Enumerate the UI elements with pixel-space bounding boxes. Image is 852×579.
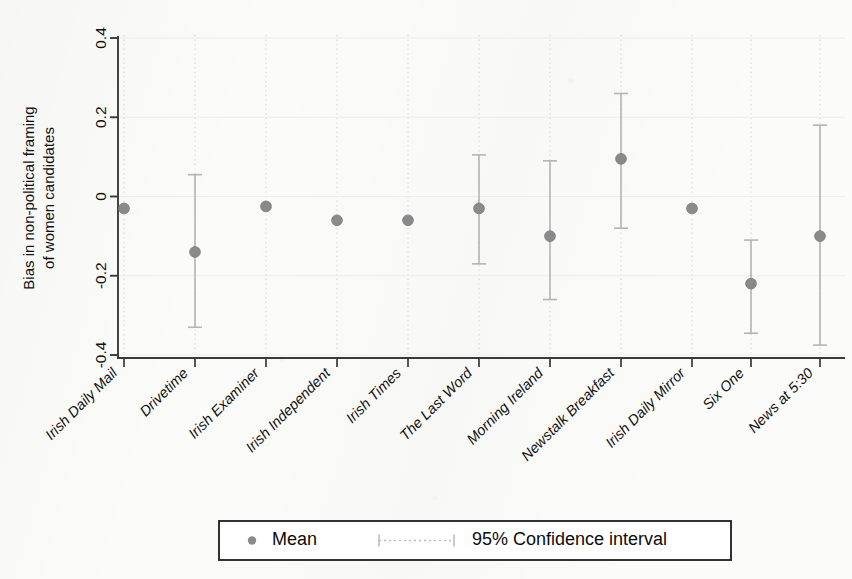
y-axis-title-line-0: Bias in non-political framing <box>20 106 37 289</box>
y-tick-label-2: 0 <box>92 192 109 201</box>
axes-group <box>110 36 845 367</box>
mean-point-8[interactable] <box>687 203 698 214</box>
mean-point-0[interactable] <box>119 203 130 214</box>
confidence-intervals-group <box>188 93 827 345</box>
x-tick-label-5: The Last Word <box>397 364 476 443</box>
legend-ci-label: 95% Confidence interval <box>472 529 667 549</box>
legend-mean-marker-icon <box>248 536 256 544</box>
x-tick-labels-group: Irish Daily MailDrivetimeIrish ExaminerI… <box>42 364 816 464</box>
mean-point-3[interactable] <box>332 215 343 226</box>
mean-point-10[interactable] <box>815 231 826 242</box>
x-tick-label-10: News at 5:30 <box>745 365 816 436</box>
y-axis-title-line-1: of women candidates <box>40 127 57 269</box>
y-axis-title-group: Bias in non-political framingof women ca… <box>20 106 57 289</box>
y-tick-labels-group: 0.40.20-0.2-0.4 <box>92 27 109 369</box>
x-tick-label-1: Drivetime <box>137 365 192 420</box>
ci-bar-6 <box>543 161 557 300</box>
mean-point-2[interactable] <box>261 201 272 212</box>
legend-group: Mean95% Confidence interval <box>219 521 731 560</box>
mean-point-4[interactable] <box>403 215 414 226</box>
bias-dot-plot: 0.40.20-0.2-0.4 Irish Daily MailDrivetim… <box>0 0 852 579</box>
x-tick-label-9: Six One <box>699 365 747 413</box>
mean-point-1[interactable] <box>190 247 201 258</box>
x-tick-label-2: Irish Examiner <box>185 364 263 442</box>
y-tick-label-0: 0.4 <box>92 27 109 49</box>
gridlines-group <box>118 35 845 355</box>
legend-mean-label: Mean <box>272 529 317 549</box>
x-tick-label-0: Irish Daily Mail <box>42 364 121 443</box>
chart-page: 0.40.20-0.2-0.4 Irish Daily MailDrivetim… <box>0 0 852 579</box>
y-tick-label-3: -0.2 <box>92 262 109 289</box>
mean-points-group <box>119 153 826 289</box>
x-tick-label-4: Irish Times <box>343 365 404 426</box>
mean-point-7[interactable] <box>616 153 627 164</box>
mean-point-6[interactable] <box>545 231 556 242</box>
x-tick-label-6: Morning Ireland <box>464 364 547 447</box>
mean-point-5[interactable] <box>474 203 485 214</box>
y-tick-label-4: -0.4 <box>92 341 109 368</box>
mean-point-9[interactable] <box>746 278 757 289</box>
y-tick-label-1: 0.2 <box>92 106 109 128</box>
